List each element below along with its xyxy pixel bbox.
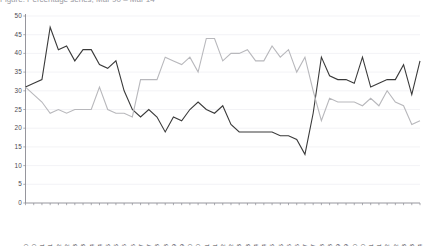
- y-tick-label: 20: [15, 124, 23, 131]
- series-line-2: [26, 38, 421, 124]
- y-tick-label: 50: [15, 12, 23, 19]
- y-tick-label: 40: [15, 49, 23, 56]
- y-tick-label: 25: [15, 106, 23, 113]
- y-tick-label: 30: [15, 87, 23, 94]
- y-tick-labels-group: 05101520253035404550: [15, 12, 23, 206]
- y-tick-label: 15: [15, 143, 23, 150]
- y-tick-label: 10: [15, 162, 23, 169]
- y-tick-label: 0: [18, 199, 22, 206]
- y-tick-label: 35: [15, 68, 23, 75]
- y-tick-label: 45: [15, 31, 23, 38]
- y-tick-label: 5: [18, 180, 22, 187]
- chart-container: Figure: Percentage series, Mar 90 – Mar …: [0, 0, 424, 246]
- line-chart-plot: 05101520253035404550 Mar 90Sep 90Mar 91S…: [0, 0, 424, 246]
- gridlines-group: [26, 16, 421, 184]
